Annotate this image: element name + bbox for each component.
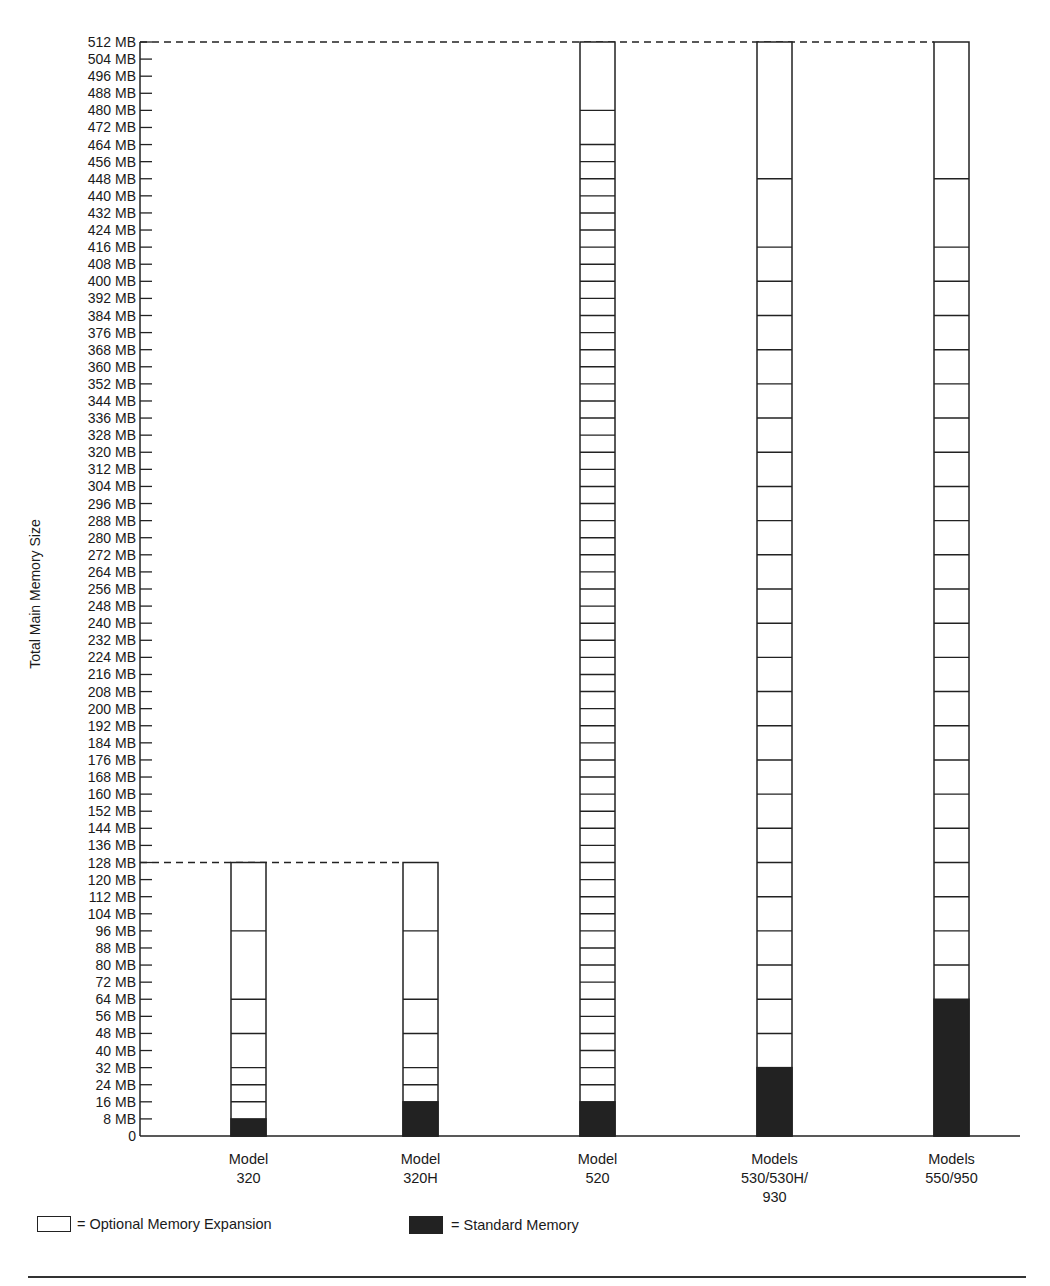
y-tick-label: 224 MB <box>0 650 136 664</box>
bar-2-standard-memory <box>403 1102 438 1136</box>
x-category-label: Model320H <box>351 1150 491 1188</box>
y-tick-label: 504 MB <box>0 52 136 66</box>
chart-plot <box>0 0 1050 1286</box>
x-category-label: Models530/530H/930 <box>705 1150 845 1207</box>
y-tick-label: 40 MB <box>0 1044 136 1058</box>
y-tick-label: 152 MB <box>0 804 136 818</box>
y-tick-label: 408 MB <box>0 257 136 271</box>
y-tick-label: 304 MB <box>0 479 136 493</box>
y-tick-label: 8 MB <box>0 1112 136 1126</box>
y-tick-label: 464 MB <box>0 138 136 152</box>
y-tick-label: 144 MB <box>0 821 136 835</box>
y-tick-label: 392 MB <box>0 291 136 305</box>
legend-standard: = Standard Memory <box>409 1216 579 1234</box>
y-tick-label: 296 MB <box>0 497 136 511</box>
y-tick-label: 480 MB <box>0 103 136 117</box>
legend-standard-label: = Standard Memory <box>451 1217 579 1233</box>
y-tick-label: 448 MB <box>0 172 136 186</box>
y-tick-label: 488 MB <box>0 86 136 100</box>
y-tick-label: 368 MB <box>0 343 136 357</box>
y-tick-label: 120 MB <box>0 873 136 887</box>
y-tick-label: 352 MB <box>0 377 136 391</box>
y-tick-label: 192 MB <box>0 719 136 733</box>
x-category-label: Model520 <box>528 1150 668 1188</box>
y-tick-label: 208 MB <box>0 685 136 699</box>
y-tick-label: 256 MB <box>0 582 136 596</box>
y-tick-label: 168 MB <box>0 770 136 784</box>
legend-optional-label: = Optional Memory Expansion <box>77 1216 272 1232</box>
y-tick-label: 232 MB <box>0 633 136 647</box>
bottom-divider <box>28 1276 1026 1278</box>
y-tick-label: 104 MB <box>0 907 136 921</box>
y-tick-label: 88 MB <box>0 941 136 955</box>
y-tick-label: 112 MB <box>0 890 136 904</box>
bar-4-standard-memory <box>757 1068 792 1136</box>
y-tick-label: 288 MB <box>0 514 136 528</box>
y-tick-label: 176 MB <box>0 753 136 767</box>
x-category-label: Model320 <box>179 1150 319 1188</box>
y-tick-label: 344 MB <box>0 394 136 408</box>
optional-swatch-icon <box>37 1216 71 1232</box>
y-tick-label: 416 MB <box>0 240 136 254</box>
y-tick-label: 216 MB <box>0 667 136 681</box>
y-tick-label: 320 MB <box>0 445 136 459</box>
y-tick-label: 0 <box>0 1129 136 1143</box>
y-tick-label: 336 MB <box>0 411 136 425</box>
y-axis-title: Total Main Memory Size <box>27 489 43 699</box>
y-tick-label: 376 MB <box>0 326 136 340</box>
y-tick-label: 512 MB <box>0 35 136 49</box>
y-tick-label: 264 MB <box>0 565 136 579</box>
bar-3-standard-memory <box>580 1102 615 1136</box>
y-tick-label: 384 MB <box>0 309 136 323</box>
y-tick-label: 360 MB <box>0 360 136 374</box>
bar-1-standard-memory <box>231 1119 266 1136</box>
y-tick-label: 496 MB <box>0 69 136 83</box>
y-tick-label: 136 MB <box>0 838 136 852</box>
y-tick-label: 248 MB <box>0 599 136 613</box>
standard-swatch-icon <box>409 1216 443 1234</box>
y-tick-label: 128 MB <box>0 856 136 870</box>
y-tick-label: 96 MB <box>0 924 136 938</box>
y-tick-label: 312 MB <box>0 462 136 476</box>
y-tick-label: 272 MB <box>0 548 136 562</box>
x-category-label: Models550/950 <box>882 1150 1022 1188</box>
y-tick-label: 456 MB <box>0 155 136 169</box>
legend-optional: = Optional Memory Expansion <box>37 1216 272 1232</box>
y-tick-label: 72 MB <box>0 975 136 989</box>
y-tick-label: 64 MB <box>0 992 136 1006</box>
y-tick-label: 432 MB <box>0 206 136 220</box>
y-tick-label: 24 MB <box>0 1078 136 1092</box>
bar-5-standard-memory <box>934 999 969 1136</box>
y-tick-label: 80 MB <box>0 958 136 972</box>
y-tick-label: 48 MB <box>0 1026 136 1040</box>
y-tick-label: 160 MB <box>0 787 136 801</box>
y-tick-label: 184 MB <box>0 736 136 750</box>
y-tick-label: 240 MB <box>0 616 136 630</box>
y-tick-label: 472 MB <box>0 120 136 134</box>
y-tick-label: 400 MB <box>0 274 136 288</box>
y-tick-label: 440 MB <box>0 189 136 203</box>
y-tick-label: 328 MB <box>0 428 136 442</box>
y-tick-label: 200 MB <box>0 702 136 716</box>
y-tick-label: 16 MB <box>0 1095 136 1109</box>
y-tick-label: 424 MB <box>0 223 136 237</box>
y-tick-label: 32 MB <box>0 1061 136 1075</box>
memory-chart: 08 MB16 MB24 MB32 MB40 MB48 MB56 MB64 MB… <box>0 0 1050 1286</box>
y-tick-label: 56 MB <box>0 1009 136 1023</box>
y-tick-label: 280 MB <box>0 531 136 545</box>
